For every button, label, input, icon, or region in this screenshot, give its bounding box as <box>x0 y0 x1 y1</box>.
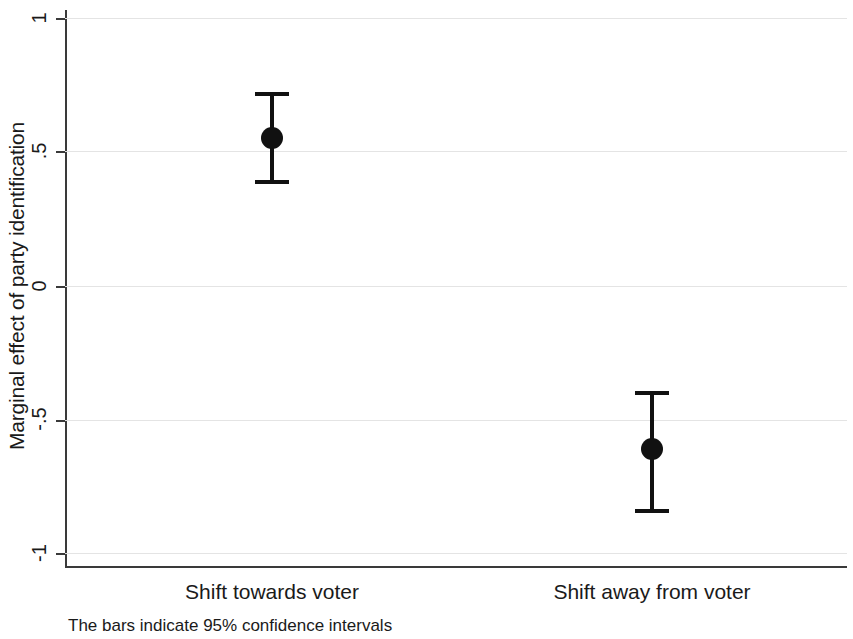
y-tick-label: 1 <box>26 8 52 28</box>
plot-area <box>65 10 847 568</box>
y-axis-line <box>65 10 67 568</box>
y-tick-label: -1 <box>26 543 52 563</box>
gridline <box>65 420 847 421</box>
y-tick-mark <box>56 553 65 555</box>
x-category-label: Shift away from voter <box>553 580 750 604</box>
x-category-label: Shift towards voter <box>185 580 359 604</box>
y-tick-label: .5 <box>26 141 52 161</box>
point-estimate-dot <box>641 438 663 460</box>
y-tick-mark <box>56 18 65 20</box>
y-axis-tick-labels: 1 .5 0 -.5 -1 <box>24 0 52 572</box>
y-tick-label: -.5 <box>26 409 52 429</box>
y-tick-label: 0 <box>26 276 52 296</box>
gridline <box>65 553 847 554</box>
gridline <box>65 286 847 287</box>
y-tick-mark <box>56 151 65 153</box>
chart-figure: Marginal effect of party identification … <box>0 0 853 639</box>
gridline <box>65 18 847 19</box>
point-estimate-dot <box>261 127 283 149</box>
error-bar-lower-cap <box>255 180 289 184</box>
y-tick-mark <box>56 286 65 288</box>
error-bar-lower-cap <box>635 509 669 513</box>
x-axis-line <box>65 566 847 568</box>
chart-footnote: The bars indicate 95% confidence interva… <box>68 616 392 636</box>
gridline <box>65 151 847 152</box>
y-tick-mark <box>56 420 65 422</box>
